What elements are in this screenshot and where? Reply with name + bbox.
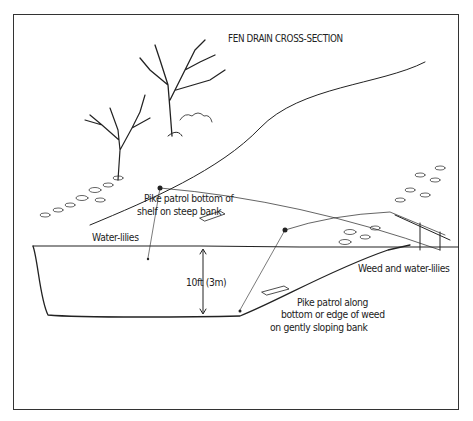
- fishing-line-2: [285, 212, 445, 235]
- label-gentle-bank-2: bottom or edge of weed: [281, 308, 385, 320]
- lily-pads-right-icon: [339, 166, 445, 245]
- shrub-icon: [180, 113, 212, 122]
- rod-rest-icon: [395, 215, 450, 250]
- upper-bank-line: [90, 62, 425, 225]
- water-surface-line: [33, 246, 458, 247]
- label-steep-bank-1: Pike patrol bottom of: [144, 192, 233, 204]
- lily-pads-left-icon: [40, 176, 123, 217]
- label-weed-lilies: Weed and water-lilies: [358, 262, 450, 274]
- label-water-lilies: Water-lilies: [92, 231, 139, 243]
- label-gentle-bank-3: on gently sloping bank: [270, 321, 368, 333]
- label-gentle-bank-1: Pike patrol along: [297, 296, 368, 308]
- diagram-title: FEN DRAIN CROSS-SECTION: [228, 33, 343, 45]
- cross-section-illustration: [0, 0, 473, 421]
- label-steep-bank-2: shelf on steep bank: [137, 205, 221, 217]
- pike-fish-2-icon: [262, 286, 289, 295]
- label-depth: 10ft (3m): [186, 276, 226, 288]
- small-tree-icon: [85, 95, 150, 180]
